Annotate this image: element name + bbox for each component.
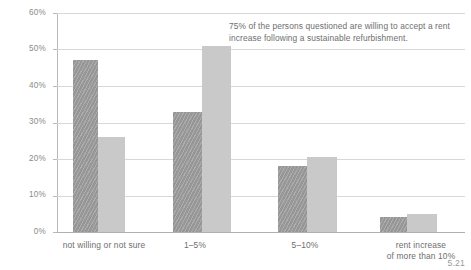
bar-series2-cat1 [98, 137, 125, 232]
y-tick-label-0: 0% [0, 227, 46, 236]
figure-bar-chart: 60% 50% 40% 30% 20% 10% 0% not willing o… [0, 0, 471, 270]
bar-series2-cat3 [307, 157, 337, 232]
bar-series1-cat4 [380, 217, 407, 232]
x-tick-label-cat1: not willing or not sure [44, 240, 164, 251]
y-tick-label-10: 10% [0, 190, 46, 199]
gridline-baseline-0 [57, 232, 465, 233]
gridline-40 [57, 86, 465, 87]
gridline-50 [57, 49, 465, 50]
x-tick-label-cat3: 5–10% [265, 240, 345, 251]
y-tick-label-30: 30% [0, 117, 46, 126]
bar-series2-cat4 [407, 214, 437, 232]
plot-area [57, 13, 465, 232]
gridline-30 [57, 123, 465, 124]
bar-series1-cat3 [278, 166, 307, 232]
y-tick-label-60: 60% [0, 8, 46, 17]
bar-series1-cat1 [73, 60, 98, 232]
y-tick-label-40: 40% [0, 81, 46, 90]
x-tick-label-cat2: 1–5% [155, 240, 235, 251]
gridline-60 [57, 13, 465, 14]
y-tick-label-20: 20% [0, 154, 46, 163]
bar-series1-cat2 [173, 112, 202, 233]
bar-series2-cat2 [202, 46, 231, 232]
annotation-callout: 75% of the persons questioned are willin… [227, 20, 453, 45]
y-tick-label-50: 50% [0, 44, 46, 53]
figure-number: 5.21 [447, 258, 465, 268]
